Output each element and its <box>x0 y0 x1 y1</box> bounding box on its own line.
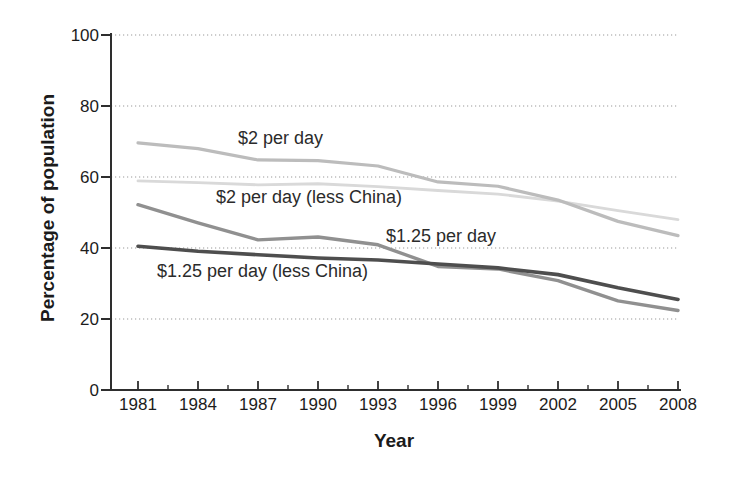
x-tick-label: 1999 <box>479 395 517 414</box>
line-1-25-per-day <box>138 205 678 311</box>
x-tick-label: 1984 <box>179 395 217 414</box>
x-tick-label: 2005 <box>599 395 637 414</box>
x-tick-label: 2002 <box>539 395 577 414</box>
y-tick-label: 20 <box>80 310 99 329</box>
line-chart-plot-area: 0204060801001981198419871990199319961999… <box>0 0 731 478</box>
annotation-2-per-day-less-china: $2 per day (less China) <box>216 187 402 207</box>
y-tick-label: 0 <box>90 381 99 400</box>
y-tick-label: 40 <box>80 239 99 258</box>
x-tick-label: 1981 <box>119 395 157 414</box>
annotation-1-25-per-day: $1.25 per day <box>386 226 496 246</box>
y-tick-label: 100 <box>71 26 99 45</box>
x-axis-title: Year <box>374 430 414 452</box>
annotation-2-per-day: $2 per day <box>238 128 323 148</box>
y-axis-title: Percentage of population <box>37 94 59 322</box>
x-tick-label: 1993 <box>359 395 397 414</box>
poverty-line-chart-figure: 0204060801001981198419871990199319961999… <box>0 0 731 478</box>
axis-spines <box>111 33 681 390</box>
y-tick-label: 80 <box>80 97 99 116</box>
x-tick-label: 1996 <box>419 395 457 414</box>
x-tick-label: 1987 <box>239 395 277 414</box>
annotation-1-25-per-day-less-china: $1.25 per day (less China) <box>157 261 368 281</box>
x-tick-label: 1990 <box>299 395 337 414</box>
x-tick-label: 2008 <box>659 395 697 414</box>
y-tick-label: 60 <box>80 168 99 187</box>
